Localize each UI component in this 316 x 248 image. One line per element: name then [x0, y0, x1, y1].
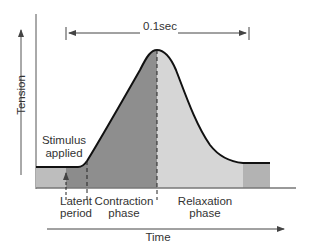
stimulus-label-2: applied [40, 147, 88, 160]
tail-region [243, 163, 270, 188]
latent-label-2: period [58, 207, 94, 220]
relaxation-label-2: phase [175, 207, 235, 220]
twitch-diagram [0, 0, 316, 248]
contraction-region [87, 50, 157, 188]
tension-label: Tension [15, 75, 29, 115]
stimulus-label-1: Stimulus [40, 134, 88, 147]
baseline-region [36, 167, 66, 188]
duration-label: 0.1sec [141, 20, 179, 33]
relaxation-region [157, 50, 243, 188]
time-label: Time [143, 231, 173, 244]
contraction-label-2: phase [94, 207, 154, 220]
